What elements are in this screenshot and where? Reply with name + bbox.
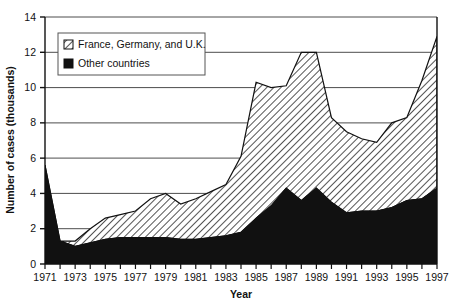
x-tick-label: 1993 xyxy=(365,271,389,283)
y-tick-label: 0 xyxy=(30,258,36,270)
legend-swatch-black xyxy=(64,59,73,68)
x-tick-label: 1981 xyxy=(184,271,208,283)
stacked-area-chart: 02468101214 1971197319751977197919811983… xyxy=(0,0,458,306)
y-tick-label: 10 xyxy=(24,81,36,93)
x-tick-label: 1973 xyxy=(63,271,87,283)
x-tick-labels: 1971197319751977197919811983198519871989… xyxy=(33,264,449,283)
x-tick-label: 1987 xyxy=(275,271,299,283)
x-axis-title: Year xyxy=(230,288,252,300)
chart-legend: France, Germany, and U.K. Other countrie… xyxy=(58,33,206,75)
x-tick-label: 1983 xyxy=(214,271,238,283)
y-tick-labels: 02468101214 xyxy=(24,11,45,270)
y-axis-title: Number of cases (thousands) xyxy=(4,66,16,214)
y-tick-label: 8 xyxy=(30,116,36,128)
x-tick-label: 1985 xyxy=(244,271,268,283)
y-tick-label: 4 xyxy=(30,187,36,199)
y-tick-label: 6 xyxy=(30,152,36,164)
x-tick-label: 1989 xyxy=(305,271,329,283)
chart-container: 02468101214 1971197319751977197919811983… xyxy=(0,0,458,306)
x-tick-label: 1995 xyxy=(395,271,419,283)
legend-swatch-hatch xyxy=(64,40,73,49)
legend-label-france-germany-uk: France, Germany, and U.K. xyxy=(78,38,206,50)
legend-label-other-countries: Other countries xyxy=(78,57,150,69)
x-tick-label: 1975 xyxy=(94,271,118,283)
x-tick-label: 1979 xyxy=(154,271,178,283)
y-tick-label: 2 xyxy=(30,222,36,234)
x-tick-label: 1997 xyxy=(425,271,449,283)
x-tick-label: 1977 xyxy=(124,271,148,283)
x-tick-label: 1991 xyxy=(335,271,359,283)
y-tick-label: 14 xyxy=(24,11,36,23)
y-tick-label: 12 xyxy=(24,46,36,58)
x-tick-label: 1971 xyxy=(33,271,57,283)
